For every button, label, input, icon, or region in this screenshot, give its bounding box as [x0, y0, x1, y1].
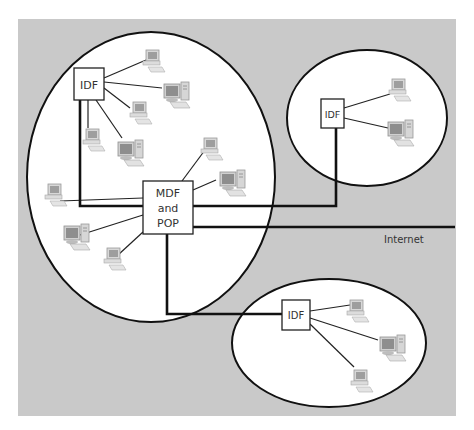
node-label-line: MDF — [156, 187, 180, 200]
node-idf-main: IDF — [74, 68, 104, 100]
node-mdf-and-pop: MDF and POP — [143, 181, 193, 234]
internet-label: Internet — [384, 234, 424, 245]
node-label: IDF — [80, 79, 98, 92]
node-label-line: and — [158, 202, 179, 215]
node-label-line: POP — [157, 217, 179, 230]
node-idf-top-right: IDF — [321, 99, 344, 128]
node-label: IDF — [325, 109, 341, 120]
zone-remote-top-right — [287, 50, 447, 186]
node-label: IDF — [288, 310, 305, 321]
network-diagram: IDF MDF and POP IDF IDF Internet — [0, 0, 474, 430]
node-idf-bottom: IDF — [282, 300, 310, 330]
